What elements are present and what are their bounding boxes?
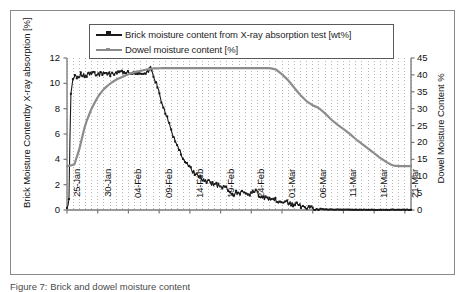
x-axis-tick-21-Mar: 21-Mar — [409, 169, 420, 215]
legend-key-brick-icon — [96, 29, 122, 40]
y-axis-left-title: Brick Moisture Contentby X-ray absorptio… — [22, 48, 32, 208]
x-axis-tick-24-Feb: 24-Feb — [255, 169, 266, 215]
x-axis-tick-04-Feb: 04-Feb — [132, 169, 143, 215]
y-axis-right-tick-20: 20 — [417, 136, 439, 147]
x-axis-tick-11-Mar: 11-Mar — [347, 169, 358, 215]
y-axis-right-tick-30: 30 — [417, 103, 439, 114]
y-axis-right-tick-45: 45 — [417, 52, 439, 63]
y-axis-right-tick-25: 25 — [417, 120, 439, 131]
x-axis-tick-25-Jan: 25-Jan — [71, 169, 82, 215]
legend-marker-brick — [106, 31, 111, 36]
x-axis-tick-30-Jan: 30-Jan — [102, 169, 113, 215]
y-axis-right-tick-0: 0 — [417, 204, 439, 215]
y-axis-right-tick-35: 35 — [417, 86, 439, 97]
chart-legend: Brick moisture content from X-ray absorp… — [89, 24, 394, 59]
x-axis-tick-06-Mar: 06-Mar — [317, 169, 328, 215]
y-axis-left-tick-6: 6 — [38, 128, 60, 139]
figure-caption: Figure 7: Brick and dowel moisture conte… — [10, 281, 190, 292]
y-axis-right-tick-10: 10 — [417, 170, 439, 181]
y-axis-left-tick-4: 4 — [38, 153, 60, 164]
x-axis-tick-01-Mar: 01-Mar — [286, 169, 297, 215]
y-axis-left-tick-12: 12 — [38, 52, 60, 63]
y-axis-left-tick-2: 2 — [38, 179, 60, 190]
y-axis-right-tick-5: 5 — [417, 187, 439, 198]
x-axis-tick-19-Feb: 19-Feb — [225, 169, 236, 215]
y-axis-left-tick-0: 0 — [38, 204, 60, 215]
x-axis-tick-16-Mar: 16-Mar — [378, 169, 389, 215]
legend-key-dowel-icon — [96, 44, 122, 55]
legend-marker-dowel — [106, 48, 110, 50]
x-axis-tick-09-Feb: 09-Feb — [163, 169, 174, 215]
x-axis-tick-14-Feb: 14-Feb — [194, 169, 205, 215]
figure-frame: Brick Moisture Contentby X-ray absorptio… — [10, 10, 455, 275]
legend-label-brick: Brick moisture content from X-ray absorp… — [125, 29, 351, 40]
legend-item-dowel: Dowel moisture content [%] — [96, 42, 393, 57]
y-axis-left-tick-10: 10 — [38, 77, 60, 88]
legend-label-dowel: Dowel moisture content [%] — [125, 44, 238, 55]
y-axis-right-tick-15: 15 — [417, 153, 439, 164]
y-axis-left-tick-8: 8 — [38, 103, 60, 114]
legend-item-brick: Brick moisture content from X-ray absorp… — [96, 27, 393, 42]
y-axis-right-tick-40: 40 — [417, 69, 439, 80]
